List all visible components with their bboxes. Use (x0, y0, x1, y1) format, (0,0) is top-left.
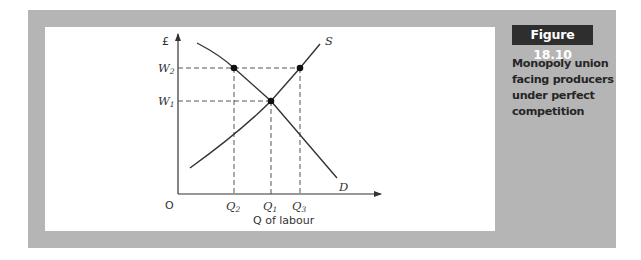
demand-curve (197, 43, 337, 178)
y-axis-label: £ (162, 35, 169, 48)
x-tick-q2: Q2 (226, 199, 240, 214)
figure-number-badge: Figure 18.10 (512, 25, 593, 45)
supply-curve (190, 44, 320, 168)
supply-label: S (325, 34, 333, 48)
point-q1-w1 (268, 98, 275, 105)
origin-label: O (165, 199, 174, 212)
x-axis-label: Q of labour (253, 214, 315, 227)
y-tick-w1: W1 (158, 94, 175, 109)
y-tick-w2: W2 (158, 61, 175, 76)
demand-label: D (338, 180, 348, 194)
x-tick-q1: Q1 (263, 199, 277, 214)
point-q3-w2 (297, 65, 304, 72)
figure-caption: Monopoly union facing producers under pe… (512, 56, 617, 120)
x-tick-q3: Q3 (292, 199, 306, 214)
point-q2-w2 (231, 65, 238, 72)
